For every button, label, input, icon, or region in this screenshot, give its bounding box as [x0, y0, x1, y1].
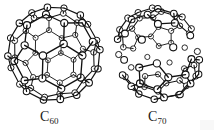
carbon-atom	[138, 36, 145, 43]
label-c60-element: C	[40, 109, 50, 124]
carbon-atom	[128, 65, 134, 71]
carbon-atom	[153, 60, 160, 67]
carbon-atom	[187, 32, 194, 39]
carbon-atom	[182, 45, 188, 51]
label-c60-subscript: 60	[50, 116, 59, 126]
carbon-atom	[194, 48, 200, 54]
label-c70-element: C	[148, 109, 158, 124]
scan-artifact	[200, 120, 214, 130]
molecule-c70-diagram	[106, 2, 212, 104]
fullerene-figure: C60 C70	[0, 0, 217, 132]
label-c70-subscript: 70	[158, 116, 167, 126]
carbon-atom	[154, 20, 161, 27]
molecule-label-c60: C60	[40, 110, 59, 124]
carbon-atom	[116, 51, 122, 57]
molecule-c60-svg	[6, 4, 102, 104]
carbon-atom	[145, 54, 150, 59]
carbon-atom	[122, 30, 129, 37]
carbon-atom	[170, 44, 177, 51]
molecule-c70-svg	[106, 2, 212, 104]
carbon-atom	[39, 52, 46, 59]
carbon-atom	[167, 60, 172, 65]
molecule-label-c70: C70	[148, 110, 167, 124]
molecule-c60-diagram	[6, 4, 102, 104]
carbon-atom	[121, 56, 128, 63]
